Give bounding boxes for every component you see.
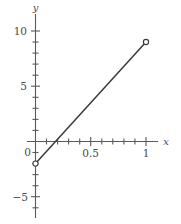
start-endpoint-open-circle xyxy=(33,161,38,166)
line-chart: 10 5 −5 0 0.5 1 x y xyxy=(0,0,181,224)
x-tick-label-half: 0.5 xyxy=(82,147,99,159)
y-tick-label-10: 10 xyxy=(14,25,27,37)
x-tick-label-one: 1 xyxy=(143,147,150,159)
y-axis-name: y xyxy=(32,2,39,13)
y-tick-label-neg5: −5 xyxy=(13,191,28,203)
x-axis-name: x xyxy=(163,136,169,147)
chart-canvas: 10 5 −5 0 0.5 1 x y xyxy=(0,0,181,224)
end-endpoint-open-circle xyxy=(143,39,148,44)
origin-label-zero: 0 xyxy=(24,146,31,158)
y-tick-label-5: 5 xyxy=(20,80,27,92)
